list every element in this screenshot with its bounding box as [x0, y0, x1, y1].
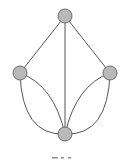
caption-fragment [52, 157, 71, 159]
node-top [58, 9, 72, 23]
caption-mark [61, 157, 64, 159]
edge-top-left [20, 16, 65, 73]
node-bottom [58, 127, 72, 141]
graph-diagram [0, 0, 128, 161]
node-right [103, 66, 117, 80]
caption-mark [68, 157, 71, 159]
edge-right-bottom [65, 73, 110, 134]
edges-group [20, 16, 110, 134]
edge-right-bottom [65, 73, 110, 134]
edge-top-right [65, 16, 110, 73]
edge-left-bottom [20, 73, 65, 134]
edge-left-bottom [20, 73, 65, 134]
node-left [13, 66, 27, 80]
caption-mark [52, 157, 58, 159]
